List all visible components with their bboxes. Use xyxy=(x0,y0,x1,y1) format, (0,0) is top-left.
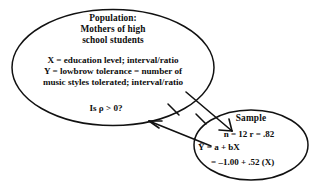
statistical-inference-diagram: Population: Mothers of high school stude… xyxy=(0,0,323,190)
population-title-line-1: Population: xyxy=(89,13,137,23)
sample-regression-line-1: Ŷ = a + bX xyxy=(198,143,240,153)
population-variable-y-line-2: music styles tolerated; interval/ratio xyxy=(43,78,183,88)
population-title-line-3: school students xyxy=(82,35,144,45)
diagram-canvas xyxy=(0,0,323,190)
inference-arrow-population-to-sample xyxy=(186,92,232,131)
population-title-line-2: Mothers of high xyxy=(80,24,145,34)
sample-regression-line-2: = –1.00 + .52 (X) xyxy=(211,158,274,168)
population-variable-y-line-1: Y = lowbrow tolerance = number of xyxy=(44,67,182,77)
population-hypothesis: Is ρ > 0? xyxy=(89,104,122,114)
population-variable-x: X = education level; interval/ratio xyxy=(48,56,179,66)
sample-title: Sample xyxy=(236,113,267,123)
sample-stats-line: n = 12 r = .82 xyxy=(224,130,275,140)
